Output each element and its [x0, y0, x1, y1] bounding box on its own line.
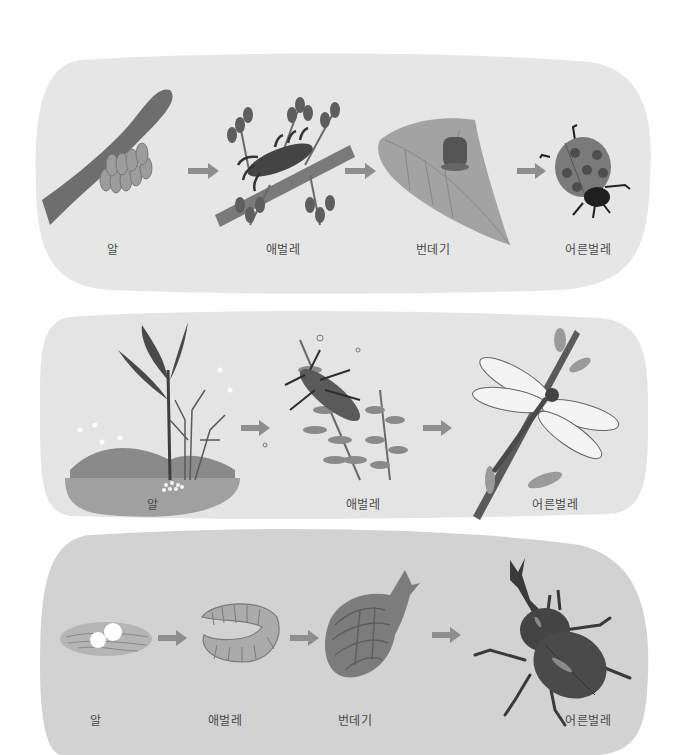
arrow-right-icon [290, 630, 320, 650]
beetle-pupa-illustration [320, 565, 420, 689]
ladybug-pupa-illustration [375, 110, 515, 254]
beetle-larva-illustration [192, 597, 282, 671]
arrow-right-icon [432, 627, 462, 647]
arrow-right-icon [158, 630, 188, 650]
dragonfly-adult-label: 어른벌레 [532, 495, 578, 512]
beetle-egg-illustration [58, 613, 158, 667]
dragonfly-egg-illustration [60, 320, 240, 524]
ladybug-egg-label: 알 [107, 240, 119, 257]
beetle-pupa-label: 번데기 [338, 711, 373, 728]
ladybug-adult-label: 어른벌레 [565, 240, 611, 257]
ladybug-adult-illustration [545, 125, 635, 224]
dragonfly-egg-label: 알 [147, 495, 159, 512]
ladybug-larva-label: 애벌레 [266, 240, 301, 257]
ladybug-larva-illustration [210, 85, 350, 229]
ladybug-life-cycle-panel: 알 애벌레 [0, 0, 681, 300]
dragonfly-nymph-label: 애벌레 [346, 495, 381, 512]
dragonfly-adult-illustration [460, 320, 650, 524]
beetle-egg-label: 알 [90, 711, 102, 728]
rhinoceros-beetle-life-cycle-panel: 알 애벌레 번데기 [0, 525, 681, 755]
arrow-right-icon [423, 420, 453, 440]
dragonfly-life-cycle-panel: 알 애벌레 [0, 300, 681, 525]
arrow-right-icon [345, 163, 377, 183]
arrow-right-icon [241, 420, 271, 440]
beetle-larva-label: 애벌레 [208, 711, 243, 728]
beetle-adult-label: 어른벌레 [565, 711, 611, 728]
dragonfly-nymph-illustration [280, 330, 420, 494]
ladybug-egg-illustration [40, 80, 180, 234]
ladybug-pupa-label: 번데기 [416, 240, 451, 257]
beetle-adult-illustration [470, 550, 640, 734]
arrow-right-icon [517, 163, 547, 183]
